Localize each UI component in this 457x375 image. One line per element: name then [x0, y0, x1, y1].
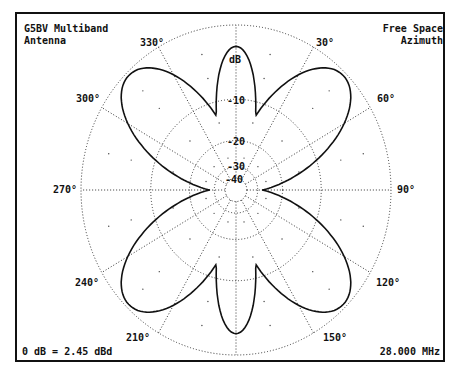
ring-label-minus10: -10 — [227, 95, 245, 107]
grid-dot — [269, 54, 270, 55]
subtitle-line-1: Free Space — [383, 23, 443, 35]
grid-dot — [213, 166, 214, 167]
grid-dot — [243, 221, 244, 222]
grid-dot — [142, 288, 143, 289]
grid-dot — [189, 238, 190, 239]
title-line-2: Antenna — [24, 35, 66, 47]
grid-dot — [218, 256, 219, 257]
ring-label-minus40: -40 — [225, 174, 243, 186]
grid-dot — [227, 157, 228, 158]
angle-label-90: 90° — [397, 184, 415, 196]
grid-dot — [205, 181, 206, 182]
grid-dot — [201, 54, 202, 55]
ring-label-0db: dB — [229, 54, 241, 66]
grid-spoke — [102, 196, 227, 273]
subtitle-line-2: Azimuth — [401, 35, 443, 47]
angle-label-210: 210° — [126, 332, 150, 344]
grid-dot — [205, 198, 206, 199]
grid-spoke — [245, 196, 370, 273]
angle-label-240: 240° — [75, 277, 99, 289]
angle-label-150: 150° — [323, 332, 347, 344]
grid-dot — [257, 166, 258, 167]
reference-level: 0 dB = 2.45 dBd — [22, 346, 112, 358]
grid-dot — [159, 271, 160, 272]
grid-spoke — [102, 108, 227, 185]
grid-spoke — [241, 200, 313, 333]
grid-dot — [265, 198, 266, 199]
grid-dot — [130, 159, 131, 160]
grid-dot — [312, 108, 313, 109]
angle-label-30: 30° — [316, 37, 334, 49]
grid-dot — [363, 153, 364, 154]
grid-dot — [189, 140, 190, 141]
grid-dot — [328, 90, 329, 91]
grid-dot — [281, 238, 282, 239]
grid-dot — [201, 325, 202, 326]
grid-dot — [207, 301, 208, 302]
grid-spoke — [159, 200, 231, 333]
grid-dot — [257, 213, 258, 214]
grid-spoke — [245, 108, 370, 185]
grid-dot — [218, 122, 219, 123]
grid-dot — [159, 108, 160, 109]
grid-dot — [213, 213, 214, 214]
grid-dot — [263, 78, 264, 79]
grid-dot — [312, 271, 313, 272]
grid-dot — [269, 325, 270, 326]
grid-dot — [207, 78, 208, 79]
grid-dot — [130, 219, 131, 220]
grid-dot — [108, 153, 109, 154]
grid-dot — [252, 122, 253, 123]
ring-label-minus20: -20 — [227, 136, 245, 148]
grid-dot — [263, 301, 264, 302]
title-line-1: G5BV Multiband — [24, 23, 108, 35]
grid-dot — [108, 226, 109, 227]
angle-label-270: 270° — [53, 184, 77, 196]
grid-dot — [340, 219, 341, 220]
grid-dot — [265, 181, 266, 182]
angle-label-330: 330° — [140, 37, 164, 49]
grid-dot — [328, 288, 329, 289]
grid-dot — [227, 221, 228, 222]
frequency-label: 28.000 MHz — [380, 346, 440, 358]
grid-dot — [281, 140, 282, 141]
grid-dot — [142, 90, 143, 91]
ring-label-minus30: -30 — [227, 161, 245, 173]
angle-label-60: 60° — [377, 93, 395, 105]
grid-dot — [340, 159, 341, 160]
angle-label-120: 120° — [376, 277, 400, 289]
grid-ring — [81, 25, 391, 355]
grid-dot — [363, 226, 364, 227]
grid-dot — [243, 157, 244, 158]
grid-spoke — [241, 47, 313, 180]
grid-spoke — [159, 47, 231, 180]
grid-dot — [252, 256, 253, 257]
angle-label-300: 300° — [76, 93, 100, 105]
